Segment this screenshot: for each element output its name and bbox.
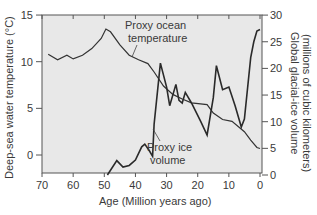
left-y-tick-label: 0 xyxy=(27,149,33,161)
left-y-axis-ticks: 151050 xyxy=(21,9,42,161)
right-y-axis-ticks: 302520151050 xyxy=(262,9,282,181)
x-tick-label: 40 xyxy=(129,179,141,191)
right-y-axis-title-line2: (millions of cubic kilometers) xyxy=(301,34,313,172)
x-tick-label: 60 xyxy=(67,179,79,191)
left-y-axis-title: Deep-sea water temperature (°C) xyxy=(3,16,15,179)
chart: 706050403020100 151050 302520151050 Prox… xyxy=(0,0,317,215)
right-y-tick-label: 0 xyxy=(270,169,276,181)
right-y-tick-label: 20 xyxy=(270,62,282,74)
temperature-annotation: Proxy oceantemperature xyxy=(125,19,187,44)
right-y-tick-label: 25 xyxy=(270,36,282,48)
ice-annotation: Proxy icevolume xyxy=(147,141,192,166)
x-tick-label: 10 xyxy=(223,179,235,191)
left-y-tick-label: 10 xyxy=(21,56,33,68)
x-tick-label: 50 xyxy=(98,179,110,191)
x-tick-label: 0 xyxy=(257,179,263,191)
right-y-axis-title-line1: Global glacial-ice volume xyxy=(289,32,301,154)
x-tick-label: 20 xyxy=(192,179,204,191)
left-y-tick-label: 5 xyxy=(27,102,33,114)
right-y-tick-label: 5 xyxy=(270,142,276,154)
right-y-tick-label: 15 xyxy=(270,89,282,101)
left-y-tick-label: 15 xyxy=(21,9,33,21)
x-tick-label: 70 xyxy=(36,179,48,191)
right-y-tick-label: 30 xyxy=(270,9,282,21)
x-axis-title: Age (Million years ago) xyxy=(99,195,212,207)
x-tick-label: 30 xyxy=(160,179,172,191)
right-y-tick-label: 10 xyxy=(270,116,282,128)
